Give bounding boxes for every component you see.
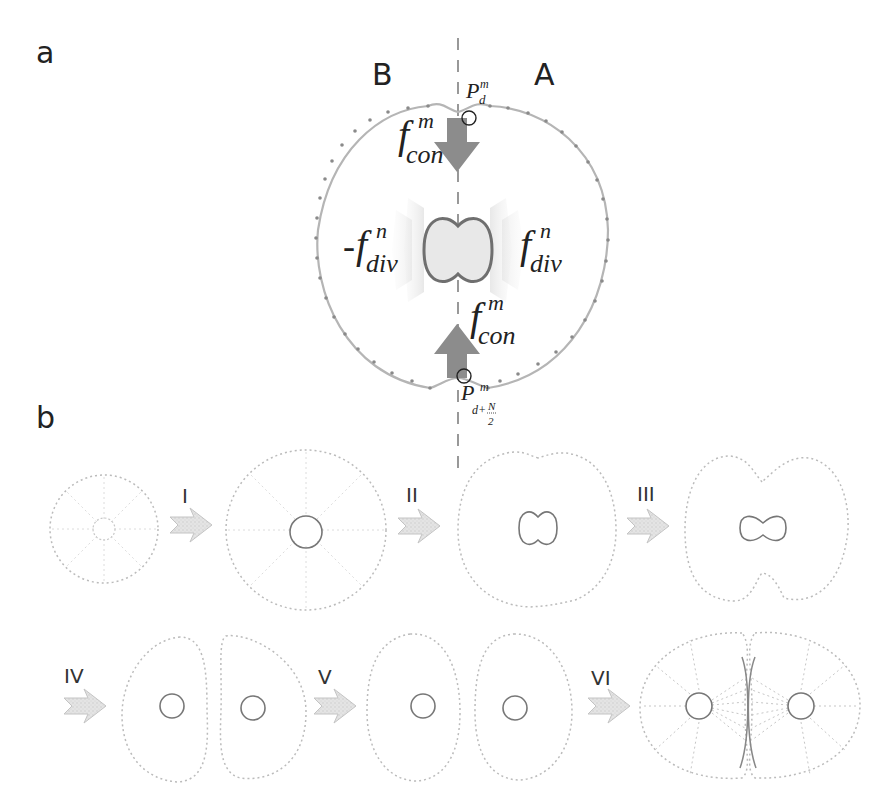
nucleus-icon (686, 693, 712, 719)
stage-large-round-cell (226, 450, 386, 610)
stage-rounded-daughter-cells (367, 634, 572, 781)
step-vi-arrow-icon (588, 689, 630, 723)
svg-text:d: d (479, 92, 486, 107)
panel-a: a B A P m (36, 35, 610, 470)
nucleus-icon (788, 693, 814, 719)
svg-text:con: con (406, 140, 444, 169)
panel-b: b I II (36, 400, 860, 782)
stage-daughters-with-spindle (640, 632, 860, 778)
force-divide-right-label: f n div (520, 218, 562, 278)
svg-text:n: n (540, 218, 551, 243)
side-a-label: A (534, 57, 555, 92)
step-ii-label: II (406, 483, 418, 507)
step-i-arrow-icon (170, 508, 212, 542)
step-i-label: I (182, 484, 188, 508)
force-contract-top-label: f m con (398, 108, 444, 169)
stage-separated-daughter-cells (122, 636, 306, 782)
point-pd-label: P m d (465, 77, 489, 107)
nucleus-icon (160, 694, 184, 718)
stage-dumbbell-nucleus (458, 452, 616, 607)
svg-text:m: m (480, 380, 489, 394)
force-divide-left-label: - f n div (343, 218, 398, 278)
panel-a-label: a (36, 35, 54, 70)
dividing-nucleus (424, 218, 492, 281)
force-contract-bottom-label: f m con (470, 290, 516, 350)
svg-text:div: div (530, 249, 562, 278)
svg-text:div: div (366, 249, 398, 278)
cleavage-membrane-right (748, 657, 756, 768)
nucleus-icon (519, 512, 557, 544)
svg-text:con: con (478, 321, 516, 350)
step-v-arrow-icon (314, 689, 356, 723)
step-iii-label: III (637, 482, 655, 506)
nucleus-icon (740, 516, 786, 540)
svg-text:d+: d+ (472, 403, 486, 417)
svg-text:P: P (465, 78, 479, 103)
nucleus-icon (290, 516, 322, 548)
svg-text:N: N (487, 400, 496, 412)
nucleus-icon (241, 696, 265, 720)
panel-b-label: b (36, 400, 55, 435)
stage-furrowed-cell (685, 456, 848, 601)
svg-text:m: m (418, 108, 434, 133)
step-ii-arrow-icon (398, 509, 440, 543)
step-iii-arrow-icon (627, 509, 669, 543)
step-v-label: V (318, 665, 332, 689)
nucleus-icon (503, 696, 527, 720)
svg-text:n: n (376, 218, 387, 243)
stage-small-round-cell (50, 475, 158, 583)
svg-text:m: m (480, 77, 489, 91)
step-iv-arrow-icon (64, 689, 106, 723)
nucleus-icon (411, 694, 435, 718)
side-b-label: B (372, 57, 393, 92)
svg-text:2: 2 (488, 415, 494, 427)
cell-division-figure: a B A P m (0, 0, 895, 806)
svg-text:-: - (343, 226, 355, 266)
step-vi-label: VI (591, 666, 611, 690)
svg-text:P: P (460, 380, 474, 405)
step-iv-label: IV (64, 664, 84, 688)
